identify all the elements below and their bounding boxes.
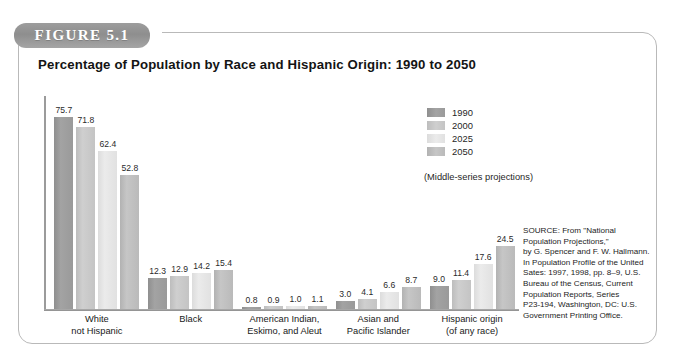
bar-value-label: 15.4 bbox=[215, 258, 232, 268]
source-line: P23-194, Washington, DC: U.S. bbox=[523, 300, 651, 311]
bar-wrap: 12.3 bbox=[148, 97, 167, 309]
bar-value-label: 75.7 bbox=[56, 105, 73, 115]
source-line: SOURCE: From "National bbox=[523, 226, 651, 237]
bar-wrap: 0.9 bbox=[264, 97, 283, 309]
legend-swatch-icon bbox=[427, 108, 445, 117]
x-axis-category-labels: White not Hispanic Black American Indian… bbox=[50, 314, 519, 337]
legend-swatch-icon bbox=[427, 134, 445, 143]
bar-wrap: 75.7 bbox=[54, 97, 73, 309]
bar-value-label: 0.9 bbox=[268, 295, 280, 305]
source-line: In Population Profile of the United bbox=[523, 258, 651, 269]
source-line: Population Reports, Series bbox=[523, 290, 651, 301]
bar-2025 bbox=[192, 273, 211, 309]
bar-wrap: 71.8 bbox=[76, 97, 95, 309]
source-line: Sates: 1997, 1998, pp. 8–9, U.S. bbox=[523, 268, 651, 279]
legend-item-2050: 2050 bbox=[427, 145, 473, 158]
y-axis-line bbox=[44, 96, 46, 311]
bar-value-label: 12.3 bbox=[149, 266, 166, 276]
figure-number-label: FIGURE 5.1 bbox=[35, 27, 130, 44]
source-line: by G. Spencer and F. W. Hallmann. bbox=[523, 247, 651, 258]
legend-note: (Middle-series projections) bbox=[424, 172, 533, 182]
bar-wrap: 24.5 bbox=[496, 97, 515, 309]
bar-group-american-indian-eskimo-aleut: 0.8 0.9 1.0 1.1 bbox=[238, 97, 332, 309]
bar-group-asian-pacific-islander: 3.0 4.1 6.6 8.7 bbox=[331, 97, 425, 309]
bar-2000 bbox=[452, 280, 471, 309]
category-label-asian-pacific-islander: Asian and Pacific Islander bbox=[331, 314, 425, 337]
figure-container: FIGURE 5.1 Percentage of Population by R… bbox=[0, 0, 679, 362]
bar-value-label: 9.0 bbox=[433, 274, 445, 284]
category-line-1: Black bbox=[144, 314, 238, 326]
bar-value-label: 71.8 bbox=[78, 115, 95, 125]
legend-label: 2050 bbox=[452, 146, 473, 157]
bar-2050 bbox=[496, 246, 515, 309]
bar-wrap: 0.8 bbox=[242, 97, 261, 309]
bar-value-label: 24.5 bbox=[497, 234, 514, 244]
bar-1990 bbox=[54, 117, 73, 309]
legend-item-2025: 2025 bbox=[427, 132, 473, 145]
legend-item-2000: 2000 bbox=[427, 119, 473, 132]
bar-value-label: 14.2 bbox=[193, 261, 210, 271]
source-line: Population Projections," bbox=[523, 237, 651, 248]
bar-1990 bbox=[336, 301, 355, 309]
bar-wrap: 12.9 bbox=[170, 97, 189, 309]
bar-2025 bbox=[474, 264, 493, 309]
legend-item-1990: 1990 bbox=[427, 106, 473, 119]
bar-group-white-not-hispanic: 75.7 71.8 62.4 52.8 bbox=[50, 97, 144, 309]
bar-2000 bbox=[170, 276, 189, 309]
bar-value-label: 11.4 bbox=[453, 268, 469, 278]
category-line-2: Eskimo, and Aleut bbox=[238, 326, 332, 338]
legend-label: 1990 bbox=[452, 107, 473, 118]
category-line-1: Asian and bbox=[331, 314, 425, 326]
legend-label: 2025 bbox=[452, 133, 473, 144]
legend-swatch-icon bbox=[427, 147, 445, 156]
bar-2025 bbox=[98, 151, 117, 309]
figure-number-tag: FIGURE 5.1 bbox=[14, 23, 150, 48]
category-line-2: not Hispanic bbox=[50, 326, 144, 338]
bar-2050 bbox=[402, 287, 421, 309]
bar-wrap: 1.0 bbox=[286, 97, 305, 309]
bar-value-label: 4.1 bbox=[361, 287, 373, 297]
bar-1990 bbox=[430, 286, 449, 309]
legend-swatch-icon bbox=[427, 121, 445, 130]
bar-2000 bbox=[76, 127, 95, 309]
x-axis-line bbox=[44, 309, 519, 312]
bar-value-label: 62.4 bbox=[100, 139, 117, 149]
bar-value-label: 8.7 bbox=[405, 275, 417, 285]
bar-2050 bbox=[120, 175, 139, 309]
bar-value-label: 17.6 bbox=[475, 252, 492, 262]
bar-wrap: 3.0 bbox=[336, 97, 355, 309]
bar-wrap: 4.1 bbox=[358, 97, 377, 309]
category-line-2: Pacific Islander bbox=[331, 326, 425, 338]
category-label-white-not-hispanic: White not Hispanic bbox=[50, 314, 144, 337]
bar-value-label: 3.0 bbox=[339, 289, 351, 299]
source-line: Bureau of the Census, Current bbox=[523, 279, 651, 290]
bar-2050 bbox=[214, 270, 233, 309]
bar-value-label: 6.6 bbox=[383, 280, 395, 290]
category-line-1: American Indian, bbox=[238, 314, 332, 326]
bar-wrap: 1.1 bbox=[308, 97, 327, 309]
category-line-1: White bbox=[50, 314, 144, 326]
bar-value-label: 1.0 bbox=[290, 294, 302, 304]
bar-group-black: 12.3 12.9 14.2 15.4 bbox=[144, 97, 238, 309]
bar-wrap: 15.4 bbox=[214, 97, 233, 309]
bar-1990 bbox=[148, 278, 167, 309]
bar-wrap: 17.6 bbox=[474, 97, 493, 309]
bar-value-label: 12.9 bbox=[171, 264, 188, 274]
legend-label: 2000 bbox=[452, 120, 473, 131]
bar-2000 bbox=[358, 299, 377, 309]
bar-wrap: 6.6 bbox=[380, 97, 399, 309]
bar-value-label: 1.1 bbox=[312, 294, 324, 304]
bar-value-label: 0.8 bbox=[246, 295, 258, 305]
bar-2025 bbox=[286, 306, 305, 309]
source-line: Government Printing Office. bbox=[523, 311, 651, 322]
bar-wrap: 62.4 bbox=[98, 97, 117, 309]
bar-2050 bbox=[308, 306, 327, 309]
category-label-american-indian-eskimo-aleut: American Indian, Eskimo, and Aleut bbox=[238, 314, 332, 337]
source-note: SOURCE: From "National Population Projec… bbox=[523, 226, 651, 321]
category-line-2: (of any race) bbox=[425, 326, 519, 338]
category-line-1: Hispanic origin bbox=[425, 314, 519, 326]
bar-value-label: 52.8 bbox=[122, 163, 139, 173]
category-label-hispanic-origin: Hispanic origin (of any race) bbox=[425, 314, 519, 337]
category-label-black: Black bbox=[144, 314, 238, 337]
bar-2000 bbox=[264, 306, 283, 308]
